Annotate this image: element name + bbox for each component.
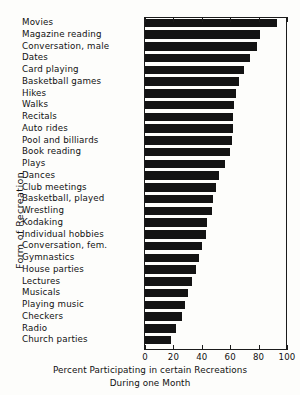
- category-label: Recitals: [22, 111, 57, 123]
- bar: [145, 148, 230, 156]
- bar-row: Walks: [0, 99, 300, 111]
- bar-row: Playing music: [0, 299, 300, 311]
- bar-row: Book reading: [0, 146, 300, 158]
- bar-track: [145, 77, 287, 85]
- bar: [145, 195, 213, 203]
- bar-row: Auto rides: [0, 123, 300, 135]
- bar-track: [145, 66, 287, 74]
- category-label: Playing music: [22, 299, 84, 311]
- bar: [145, 301, 185, 309]
- bar-row: Wrestling: [0, 205, 300, 217]
- bar: [145, 66, 244, 74]
- bar-track: [145, 160, 287, 168]
- bar-track: [145, 230, 287, 238]
- category-label: Basketball games: [22, 76, 101, 88]
- bar-row: Conversation, fem.: [0, 240, 300, 252]
- x-tick-label: 20: [168, 352, 179, 362]
- bar: [145, 242, 202, 250]
- bar: [145, 312, 182, 320]
- chart-caption: Percent Participating in certain Recreat…: [0, 364, 300, 389]
- caption-line-2: During one Month: [0, 377, 300, 390]
- bar-track: [145, 89, 287, 97]
- bar-row: Conversation, male: [0, 41, 300, 53]
- bar-row: Kodaking: [0, 217, 300, 229]
- category-label: Movies: [22, 17, 53, 29]
- bar: [145, 277, 192, 285]
- bar-row: Lectures: [0, 276, 300, 288]
- axis-tick: [230, 345, 231, 350]
- bar-row: Radio: [0, 323, 300, 335]
- bar: [145, 218, 207, 226]
- category-label: Musicals: [22, 287, 60, 299]
- bar-track: [145, 242, 287, 250]
- bar: [145, 113, 233, 121]
- bar: [145, 230, 206, 238]
- category-label: Dates: [22, 52, 48, 64]
- category-label: Church parties: [22, 334, 88, 346]
- bar-track: [145, 136, 287, 144]
- category-label: Pool and billiards: [22, 135, 99, 147]
- bar-row: Plays: [0, 158, 300, 170]
- bar-row: Church parties: [0, 334, 300, 346]
- category-label: Dances: [22, 170, 55, 182]
- category-label: Hikes: [22, 88, 46, 100]
- category-label: Basketball, played: [22, 193, 104, 205]
- bar: [145, 124, 233, 132]
- category-label: Checkers: [22, 311, 63, 323]
- axis-tick: [173, 17, 174, 22]
- x-tick-label: 60: [225, 352, 236, 362]
- bar: [145, 101, 234, 109]
- x-tick-label: 100: [278, 352, 295, 362]
- axis-tick: [202, 17, 203, 22]
- bar-row: Individual hobbies: [0, 229, 300, 241]
- bar: [145, 30, 260, 38]
- bar: [145, 324, 176, 332]
- bar: [145, 136, 232, 144]
- category-label: Conversation, fem.: [22, 240, 107, 252]
- category-label: Magazine reading: [22, 29, 102, 41]
- category-label: Club meetings: [22, 182, 87, 194]
- axis-tick: [259, 17, 260, 22]
- bar-track: [145, 183, 287, 191]
- bar: [145, 289, 188, 297]
- bar-track: [145, 277, 287, 285]
- bar-track: [145, 171, 287, 179]
- bar: [145, 19, 277, 27]
- bar-row: Recitals: [0, 111, 300, 123]
- bar-track: [145, 42, 287, 50]
- axis-tick: [173, 345, 174, 350]
- bar-track: [145, 301, 287, 309]
- category-label: Lectures: [22, 276, 60, 288]
- caption-line-1: Percent Participating in certain Recreat…: [0, 364, 300, 377]
- bar: [145, 254, 199, 262]
- bar: [145, 207, 212, 215]
- bar-track: [145, 54, 287, 62]
- bar: [145, 183, 216, 191]
- axis-tick: [259, 345, 260, 350]
- bar: [145, 336, 171, 344]
- bar-track: [145, 148, 287, 156]
- bar: [145, 42, 257, 50]
- bar-row: Club meetings: [0, 182, 300, 194]
- category-label: Walks: [22, 99, 48, 111]
- bar-track: [145, 195, 287, 203]
- category-label: House parties: [22, 264, 84, 276]
- bar-track: [145, 312, 287, 320]
- category-label: Individual hobbies: [22, 229, 104, 241]
- bar-track: [145, 324, 287, 332]
- bar-row: Card playing: [0, 64, 300, 76]
- axis-tick: [145, 17, 146, 22]
- bar-track: [145, 30, 287, 38]
- bar-row: Checkers: [0, 311, 300, 323]
- bar-row: Dances: [0, 170, 300, 182]
- bar-track: [145, 265, 287, 273]
- category-label: Card playing: [22, 64, 79, 76]
- bar: [145, 77, 239, 85]
- bar-rows: MoviesMagazine readingConversation, male…: [0, 17, 300, 346]
- axis-tick: [202, 345, 203, 350]
- bar-row: Magazine reading: [0, 29, 300, 41]
- category-label: Gymnastics: [22, 252, 74, 264]
- axis-tick: [230, 17, 231, 22]
- bar-track: [145, 19, 287, 27]
- category-label: Kodaking: [22, 217, 63, 229]
